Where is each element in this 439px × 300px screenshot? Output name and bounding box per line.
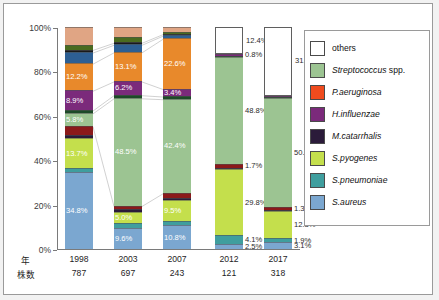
bar-segment[interactable] (264, 210, 292, 211)
y-axis-tick (53, 117, 57, 118)
bar-segment[interactable] (65, 126, 93, 135)
bar-segment[interactable] (65, 45, 93, 50)
legend-label: S.pyogenes (332, 153, 377, 163)
bar-segment[interactable] (65, 110, 93, 113)
bar-segment[interactable] (65, 50, 93, 53)
bar-segment[interactable]: 10.8% (163, 225, 191, 249)
bar-segment[interactable] (264, 97, 292, 98)
bar-segment[interactable] (114, 223, 142, 227)
bar-segment[interactable] (114, 42, 142, 44)
bar-segment[interactable] (163, 35, 191, 38)
bar-1998[interactable]: 34.8%13.7%5.8%8.9%12.2% (65, 27, 93, 249)
bar-segment[interactable]: 42.4% (163, 99, 191, 193)
x-axis-strain-count-2012: 121 (206, 268, 252, 278)
bar-2012[interactable]: 2.5%4.1%29.8%1.7%48.8%0.8%12.4% (215, 27, 243, 249)
bar-segment[interactable]: 34.8% (65, 172, 93, 249)
row-head-strains: 株数 (17, 268, 35, 280)
bar-segment[interactable]: 9.5% (163, 200, 191, 221)
row-head-year: 年 (21, 254, 30, 266)
bar-segment[interactable]: 12.2% (65, 63, 93, 90)
y-axis-tick-label: 20% (19, 201, 51, 211)
bar-segment[interactable] (163, 198, 191, 200)
legend-label: H.influenzae (332, 109, 380, 119)
bar-segment[interactable] (65, 52, 93, 63)
segment-value-label: 9.6% (115, 235, 132, 243)
legend-item-spyogenes[interactable]: S.pyogenes (310, 147, 424, 169)
x-axis-strain-count-2017: 318 (255, 268, 301, 278)
bar-segment[interactable]: 9.6% (114, 228, 142, 249)
bar-segment[interactable]: 1.7% (215, 164, 243, 168)
bar-segment[interactable]: 12.4% (215, 27, 243, 54)
bar-2003[interactable]: 9.6%5.0%48.5%6.2%13.1% (114, 27, 142, 249)
segment-value-label: 42.4% (164, 143, 186, 151)
bar-segment[interactable] (114, 37, 142, 42)
bar-segment[interactable] (163, 193, 191, 198)
bar-segment[interactable]: 12.3% (264, 211, 292, 238)
bar-segment[interactable]: 1.3% (264, 207, 292, 210)
y-axis-tick-label: 60% (19, 112, 51, 122)
legend-item-paeruginosa[interactable]: P.aeruginosa (310, 81, 424, 103)
bar-segment[interactable] (114, 27, 142, 37)
y-axis-tick-label: 40% (19, 156, 51, 166)
legend-swatch (310, 195, 325, 210)
bar-segment[interactable]: 5.8% (65, 113, 93, 126)
bar-segment[interactable]: 4.1% (215, 235, 243, 244)
legend-swatch (310, 63, 325, 78)
segment-value-label: 8.9% (66, 97, 83, 105)
x-axis-year-2017: 2017 (255, 254, 301, 264)
segment-value-label: 48.5% (115, 148, 137, 156)
bar-segment[interactable] (163, 221, 191, 225)
bar-segment[interactable]: 0.8% (215, 54, 243, 56)
bar-segment[interactable] (114, 206, 142, 209)
bar-segment[interactable] (65, 168, 93, 172)
bar-segment[interactable] (215, 56, 243, 57)
legend-swatch (310, 107, 325, 122)
legend-label: S.aureus (332, 197, 366, 207)
legend-item-streptococcusspp[interactable]: Streptococcus spp. (310, 59, 424, 81)
bar-segment[interactable]: 13.7% (65, 138, 93, 168)
x-axis-year-2007: 2007 (154, 254, 200, 264)
segment-value-label: 9.5% (164, 207, 181, 215)
segment-value-label: 2.5% (245, 243, 262, 251)
bar-segment[interactable]: 3.4% (163, 89, 191, 97)
bar-segment[interactable]: 31.4% (264, 27, 292, 96)
bar-segment[interactable]: 6.2% (114, 81, 142, 95)
bar-segment[interactable] (163, 27, 191, 31)
bar-2017[interactable]: 3.1%1.9%12.3%1.3%50.0%31.4% (264, 27, 292, 249)
bar-segment[interactable] (215, 168, 243, 170)
segment-value-label: 13.1% (115, 63, 137, 71)
bar-segment[interactable] (264, 96, 292, 97)
legend-swatch (310, 151, 325, 166)
bar-segment[interactable]: 48.5% (114, 98, 142, 206)
bar-segment[interactable] (114, 209, 142, 213)
legend-item-mcatarrhalis[interactable]: M.catarrhalis (310, 125, 424, 147)
legend-item-spneumoniae[interactable]: S.pneumoniae (310, 169, 424, 191)
bar-segment[interactable] (163, 34, 191, 36)
bar-segment[interactable]: 1.9% (264, 238, 292, 242)
x-axis-strain-count-2007: 243 (154, 268, 200, 278)
segment-value-label: 22.6% (164, 60, 186, 68)
legend-item-saureus[interactable]: S.aureus (310, 191, 424, 213)
segment-value-label: 6.2% (115, 85, 132, 93)
bar-segment[interactable] (114, 44, 142, 52)
bar-segment[interactable]: 13.1% (114, 52, 142, 81)
bar-segment[interactable] (114, 95, 142, 98)
bar-2007[interactable]: 10.8%9.5%42.4%3.4%22.6% (163, 27, 191, 249)
bar-segment[interactable] (163, 32, 191, 34)
bar-segment[interactable]: 3.1% (264, 242, 292, 249)
bar-segment[interactable]: 48.8% (215, 57, 243, 164)
bar-segment[interactable]: 8.9% (65, 90, 93, 110)
legend-item-others[interactable]: others (310, 37, 424, 59)
x-axis-year-2003: 2003 (105, 254, 151, 264)
bar-segment[interactable] (65, 135, 93, 138)
segment-value-label: 5.0% (115, 214, 132, 222)
legend-item-hinfluenzae[interactable]: H.influenzae (310, 103, 424, 125)
bar-segment[interactable]: 29.8% (215, 169, 243, 234)
bar-segment[interactable]: 2.5% (215, 244, 243, 249)
bar-segment[interactable]: 5.0% (114, 212, 142, 223)
segment-value-label: 12.2% (66, 73, 88, 81)
bar-segment[interactable]: 50.0% (264, 98, 292, 207)
bar-segment[interactable]: 22.6% (163, 38, 191, 88)
segment-value-label: 34.8% (66, 207, 88, 215)
bar-segment[interactable] (65, 27, 93, 45)
